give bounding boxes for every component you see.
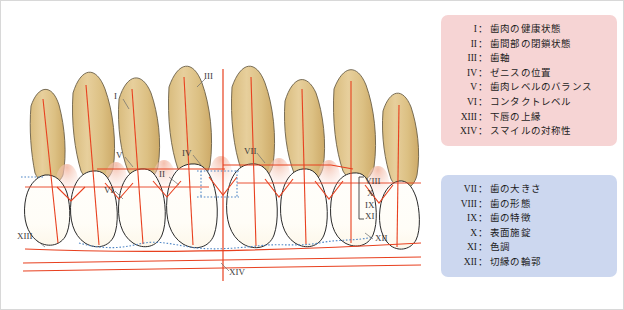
legend-blue-label-6: 切縁の輪郭 xyxy=(490,255,541,270)
legend-pink-item-1: I ： 歯肉の健康状態 xyxy=(455,22,607,37)
root-7 xyxy=(333,70,375,182)
legend-blue-label-3: 歯の特徴 xyxy=(490,211,531,226)
legend-pink-numeral-2: II xyxy=(455,37,477,52)
legend-separator: ： xyxy=(477,110,490,125)
diagram-label-i: I xyxy=(114,91,117,101)
legend-separator: ： xyxy=(477,226,490,241)
diagram-label-vii: VII xyxy=(244,146,257,156)
legend-blue-numeral-5: XI xyxy=(455,240,477,255)
legend-pink-label-4: ゼニスの位置 xyxy=(490,66,551,81)
legend-blue-label-2: 歯の形態 xyxy=(490,197,531,212)
legend-pink-numeral-6: VI xyxy=(455,95,477,110)
diagram-label-xiv: XIV xyxy=(229,267,245,277)
legend-pink-item-6: VI ： コンタクトレベル xyxy=(455,95,607,110)
smile-symmetry-line-2 xyxy=(23,265,421,271)
legend-blue-numeral-3: IX xyxy=(455,211,477,226)
legend-separator: ： xyxy=(477,80,490,95)
legend-blue-numeral-2: VIII xyxy=(455,197,477,212)
smile-symmetry-line-1 xyxy=(23,257,421,263)
root-3 xyxy=(118,78,159,181)
legend-separator: ： xyxy=(477,255,490,270)
legend-blue-item-5: XI ： 色調 xyxy=(455,240,607,255)
root-4 xyxy=(168,66,211,180)
legend-pink-item-8: XIV ： スマイルの対称性 xyxy=(455,124,607,139)
legend-separator: ： xyxy=(477,182,490,197)
legend-blue-item-6: XII ： 切縁の輪郭 xyxy=(455,255,607,270)
legend-blue-item-3: IX ： 歯の特徴 xyxy=(455,211,607,226)
legend-pink-numeral-5: V xyxy=(455,80,477,95)
dental-diagram-svg: I II III IV V VI VII XII XIII XIV VIII X… xyxy=(1,1,431,310)
legend-pink-numeral-7: XIII xyxy=(455,110,477,125)
legend-separator: ： xyxy=(477,197,490,212)
crown-5 xyxy=(227,164,278,248)
legend-separator: ： xyxy=(477,240,490,255)
legend-pink-numeral-4: IV xyxy=(455,66,477,81)
legend-pink-numeral-3: III xyxy=(455,51,477,66)
legend-pink-label-3: 歯軸 xyxy=(490,51,510,66)
legend-separator: ： xyxy=(477,95,490,110)
diagram-label-ii: II xyxy=(159,169,165,179)
legend-blue-item-2: VIII ： 歯の形態 xyxy=(455,197,607,212)
legend-blue-numeral-6: XII xyxy=(455,255,477,270)
root-2 xyxy=(72,72,114,183)
bracket-label-viii: VIII xyxy=(365,176,381,186)
legend-blue-numeral-1: VII xyxy=(455,182,477,197)
diagram-label-iv: IV xyxy=(182,148,192,158)
legend-blue-label-4: 表面施錠 xyxy=(490,226,531,241)
figure-frame: I II III IV V VI VII XII XIII XIV VIII X… xyxy=(0,0,624,310)
legend-blue-label-5: 色調 xyxy=(490,240,510,255)
legend-separator: ： xyxy=(477,66,490,81)
legend-pink-box: I ： 歯肉の健康状態 II ： 歯間部の閉鎖状態 III ： 歯軸 IV ： … xyxy=(441,15,617,146)
legend-pink-item-2: II ： 歯間部の閉鎖状態 xyxy=(455,37,607,52)
legend-blue-item-4: X ： 表面施錠 xyxy=(455,226,607,241)
legend-pink-item-3: III ： 歯軸 xyxy=(455,51,607,66)
legend-pink-label-6: コンタクトレベル xyxy=(490,95,572,110)
legend-separator: ： xyxy=(477,211,490,226)
legend-pink-numeral-1: I xyxy=(455,22,477,37)
legend-pink-label-7: 下唇の上縁 xyxy=(490,110,541,125)
legend-pink-label-8: スマイルの対称性 xyxy=(490,124,572,139)
legend-separator: ： xyxy=(477,124,490,139)
legend-separator: ： xyxy=(477,22,490,37)
bracket-label-xi: XI xyxy=(365,211,375,221)
legend-separator: ： xyxy=(477,51,490,66)
root-8 xyxy=(382,93,418,189)
legend-blue-box: VII ： 歯の大きさ VIII ： 歯の形態 IX ： 歯の特徴 X ： 表面… xyxy=(441,175,617,277)
legend-separator: ： xyxy=(477,37,490,52)
legend-blue-numeral-4: X xyxy=(455,226,477,241)
legend-pink-label-5: 歯肉レベルのバランス xyxy=(490,80,592,95)
bracket-label-x: X xyxy=(367,188,374,198)
legend-pink-numeral-8: XIV xyxy=(455,124,477,139)
legend-pink-label-1: 歯肉の健康状態 xyxy=(490,22,561,37)
legend-pink-label-2: 歯間部の閉鎖状態 xyxy=(490,37,572,52)
bracket-label-ix: IX xyxy=(365,200,375,210)
diagram-label-xii: XII xyxy=(375,233,388,243)
diagram-label-iii: III xyxy=(204,71,213,81)
legend-blue-item-1: VII ： 歯の大きさ xyxy=(455,182,607,197)
diagram-label-xiii: XIII xyxy=(17,231,33,241)
legend-pink-item-5: V ： 歯肉レベルのバランス xyxy=(455,80,607,95)
legend-pink-item-4: IV ： ゼニスの位置 xyxy=(455,66,607,81)
legend-pink-item-7: XIII ： 下唇の上縁 xyxy=(455,110,607,125)
diagram-label-vi: VI xyxy=(104,185,114,195)
dental-diagram: I II III IV V VI VII XII XIII XIV VIII X… xyxy=(1,1,431,310)
legend-blue-label-1: 歯の大きさ xyxy=(490,182,541,197)
diagram-label-v: V xyxy=(116,150,123,160)
leader-xiv xyxy=(221,263,229,271)
